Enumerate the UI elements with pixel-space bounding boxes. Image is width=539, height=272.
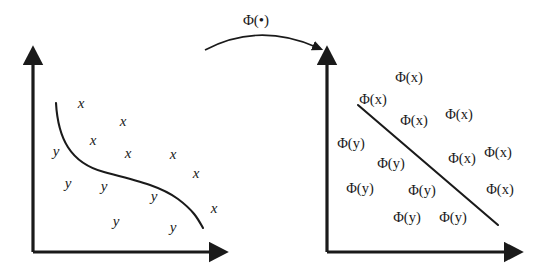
input-space-label-y: y	[151, 189, 158, 204]
input-space-label-x: x	[125, 146, 132, 161]
feature-space-label-phix: Φ(x)	[486, 182, 514, 197]
input-space-label-x: x	[211, 201, 218, 216]
input-space-label-x: x	[193, 166, 200, 181]
input-space-label-x: x	[120, 114, 127, 129]
feature-space-label-phix: Φ(x)	[395, 70, 423, 85]
mapping-operator-label: Φ(•)	[243, 13, 269, 28]
kernel-transformation-figure: Φ(•) xxxyxxxyyyxyy Φ(x)Φ(x)Φ(x)Φ(x)Φ(y)Φ…	[0, 0, 539, 272]
feature-space-label-phiy: Φ(y)	[377, 156, 405, 171]
input-space-label-x: x	[78, 96, 85, 111]
feature-space-label-phiy: Φ(y)	[337, 136, 365, 151]
input-space-label-y: y	[65, 176, 72, 191]
feature-space-label-phiy: Φ(y)	[393, 210, 421, 225]
input-space-label-y: y	[113, 214, 120, 229]
feature-space-label-phiy: Φ(y)	[408, 183, 436, 198]
input-space-label-y: y	[170, 220, 177, 235]
feature-space-label-phix: Φ(x)	[359, 92, 387, 107]
input-space-label-x: x	[90, 133, 97, 148]
feature-space-label-phiy: Φ(y)	[346, 181, 374, 196]
feature-space-label-phix: Φ(x)	[400, 113, 428, 128]
mapping-arrow	[205, 35, 316, 50]
nonlinear-decision-boundary	[56, 103, 203, 228]
input-space-label-y: y	[101, 179, 108, 194]
feature-space-label-phix: Φ(x)	[445, 107, 473, 122]
feature-space-label-phix: Φ(x)	[484, 145, 512, 160]
feature-space-label-phix: Φ(x)	[448, 151, 476, 166]
input-space-label-x: x	[170, 147, 177, 162]
figure-vector-layer	[0, 0, 539, 272]
input-space-label-y: y	[53, 144, 60, 159]
feature-space-label-phiy: Φ(y)	[439, 210, 467, 225]
